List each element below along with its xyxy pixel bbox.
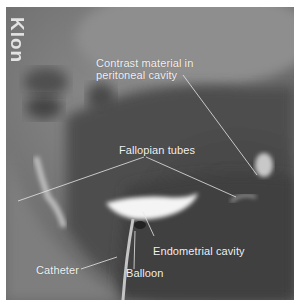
label-endometrial-cavity: Endometrial cavity [153,245,245,257]
label-balloon: Balloon [126,267,163,279]
label-fallopian-tubes: Fallopian tubes [119,144,195,156]
label-catheter: Catheter [36,264,79,276]
label-contrast-material: Contrast material in peritoneal cavity [96,57,193,81]
label-contrast-line1: Contrast material in [96,57,193,69]
label-contrast-line2: peritoneal cavity [96,69,193,81]
edge-text: Klon [6,17,28,63]
radiograph-image: Klon Contrast material in peritoneal cav… [6,7,294,300]
